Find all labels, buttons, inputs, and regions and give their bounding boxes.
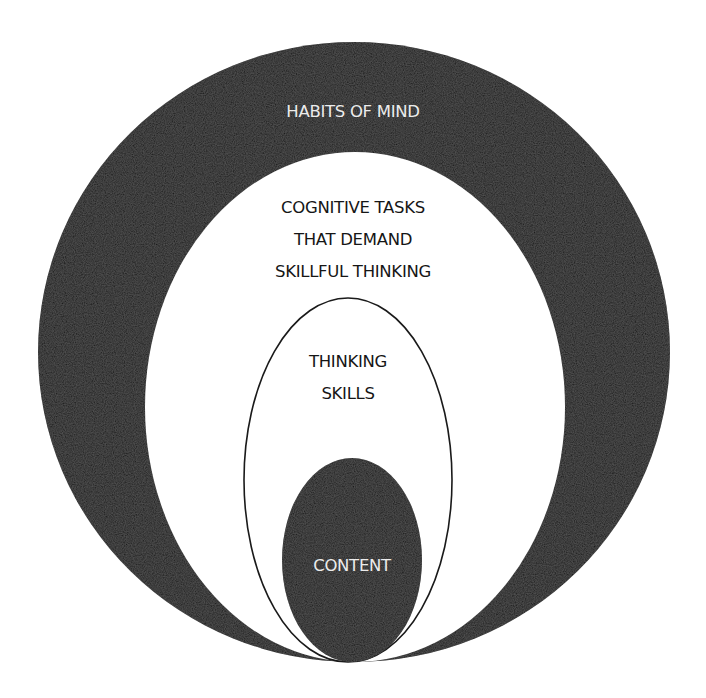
- habits-of-mind-label: HABITS OF MIND: [203, 96, 503, 128]
- thinking-skills-label: THINKING SKILLS: [248, 346, 448, 410]
- nested-ellipse-diagram: HABITS OF MIND COGNITIVE TASKS THAT DEMA…: [0, 0, 706, 698]
- content-label: CONTENT: [272, 550, 432, 582]
- cognitive-tasks-label: COGNITIVE TASKS THAT DEMAND SKILLFUL THI…: [198, 192, 508, 288]
